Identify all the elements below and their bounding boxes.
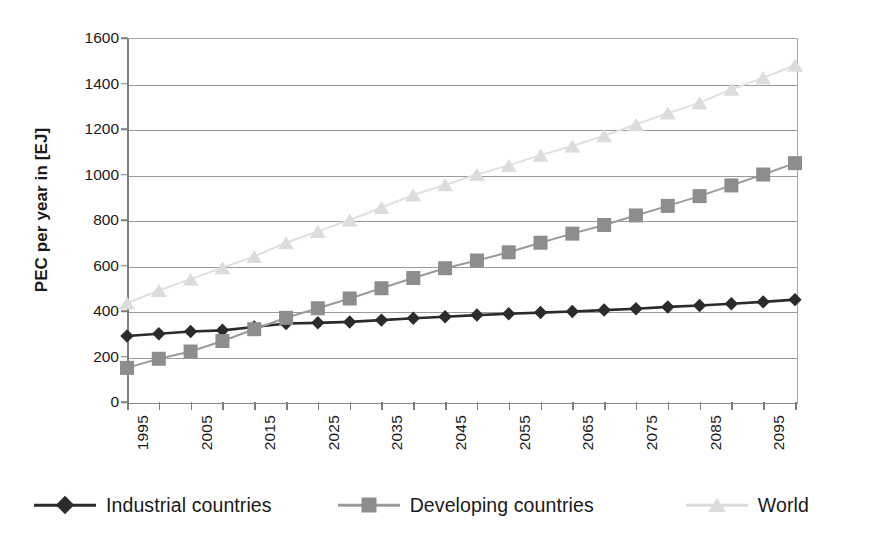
chart-legend: Industrial countries Developing countrie… — [34, 488, 854, 522]
x-axis-tick-label: 2035 — [388, 415, 406, 450]
legend-label-industrial-countries: Industrial countries — [106, 494, 272, 517]
legend-item-industrial-countries[interactable]: Industrial countries — [34, 494, 272, 517]
y-axis-tickmark — [121, 265, 128, 267]
square-marker-icon — [338, 495, 400, 515]
y-axis-tick-label: 0 — [59, 393, 119, 411]
legend-label-developing-countries: Developing countries — [410, 494, 594, 517]
y-axis-tick-label: 800 — [59, 211, 119, 229]
gridline — [129, 312, 797, 313]
y-axis-tickmark — [121, 128, 128, 130]
x-axis-tick-label: 2025 — [325, 415, 343, 450]
x-axis-tick-label: 2045 — [452, 415, 470, 450]
y-axis-tick-labels: 02004006008001000120014001600 — [55, 38, 119, 402]
y-axis-tick-label: 200 — [59, 348, 119, 366]
x-axis-tick-label: 2065 — [579, 415, 597, 450]
y-axis-tick-label: 1600 — [59, 29, 119, 47]
y-axis-tickmark — [121, 37, 128, 39]
gridline — [129, 176, 797, 177]
y-axis-tick-label: 400 — [59, 302, 119, 320]
y-axis-tick-label: 1400 — [59, 75, 119, 93]
x-axis-tick-label: 2015 — [261, 415, 279, 450]
x-axis-tick-label: 1995 — [134, 415, 152, 450]
y-axis-tickmark — [121, 83, 128, 85]
legend-item-world[interactable]: World — [686, 494, 809, 517]
x-axis-tick-label: 2095 — [770, 415, 788, 450]
legend-item-developing-countries[interactable]: Developing countries — [338, 494, 594, 517]
chart-container: PEC per year in [EJ] 0200400600800100012… — [0, 0, 889, 542]
legend-label-world: World — [758, 494, 809, 517]
triangle-marker-icon — [686, 495, 748, 515]
x-axis-tick-label: 2005 — [198, 415, 216, 450]
y-axis-tickmark — [121, 401, 128, 403]
y-axis-tick-label: 600 — [59, 257, 119, 275]
y-axis-tickmark — [121, 174, 128, 176]
x-axis-tick-label: 2055 — [516, 415, 534, 450]
y-axis-tickmark — [121, 356, 128, 358]
gridline — [129, 130, 797, 131]
y-axis-tickmark — [121, 219, 128, 221]
gridline — [129, 267, 797, 268]
x-axis-tick-label: 2075 — [643, 415, 661, 450]
y-axis-tick-label: 1000 — [59, 166, 119, 184]
x-axis-tick-label: 2085 — [707, 415, 725, 450]
y-axis-tickmark — [121, 310, 128, 312]
diamond-marker-icon — [34, 495, 96, 515]
y-axis-tick-label: 1200 — [59, 120, 119, 138]
plot-area — [127, 38, 798, 404]
gridline — [129, 221, 797, 222]
gridline — [129, 358, 797, 359]
gridline — [129, 85, 797, 86]
